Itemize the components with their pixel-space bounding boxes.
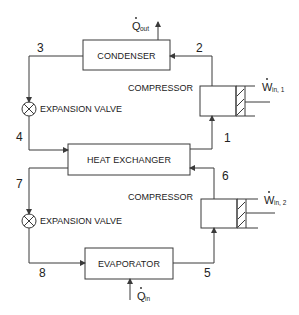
state-3-label: 3 xyxy=(37,41,44,55)
q-in-label: Q in xyxy=(137,287,150,302)
state-4-label: 4 xyxy=(16,130,23,144)
w-in-2-label: W in, 2 xyxy=(264,191,287,206)
pipe-state-7 xyxy=(29,168,68,214)
expansion-valve-top-label: EXPANSION VALVE xyxy=(40,104,122,114)
pipe-state-3 xyxy=(29,56,83,102)
svg-text:in: in xyxy=(145,295,150,302)
q-out-label: Q out xyxy=(132,17,149,32)
compressor-top xyxy=(200,86,270,116)
pipe-state-4 xyxy=(29,116,68,150)
pipe-state-8 xyxy=(29,228,85,263)
state-1-label: 1 xyxy=(224,131,231,145)
svg-text:in, 1: in, 1 xyxy=(272,86,285,93)
state-8-label: 8 xyxy=(39,266,46,280)
pipe-state-6 xyxy=(190,168,214,199)
pipe-state-5 xyxy=(173,228,214,263)
expansion-valve-top-icon xyxy=(22,102,36,116)
expansion-valve-bottom-label: EXPANSION VALVE xyxy=(40,216,122,226)
pipe-state-1 xyxy=(190,116,212,149)
svg-text:in, 2: in, 2 xyxy=(274,199,287,206)
state-2-label: 2 xyxy=(196,41,203,55)
two-stage-refrigeration-diagram: CONDENSER HEAT EXCHANGER EVAPORATOR COMP… xyxy=(0,0,299,315)
compressor-top-label: COMPRESSOR xyxy=(128,83,194,93)
expansion-valve-bottom-icon xyxy=(22,214,36,228)
w-in-1-label: W in, 1 xyxy=(262,78,285,93)
evaporator-label: EVAPORATOR xyxy=(98,259,160,269)
pipe-state-2 xyxy=(170,56,212,86)
compressor-bottom-label: COMPRESSOR xyxy=(128,192,194,202)
state-7-label: 7 xyxy=(16,177,23,191)
heat-exchanger-label: HEAT EXCHANGER xyxy=(87,155,171,165)
state-5-label: 5 xyxy=(204,266,211,280)
svg-text:out: out xyxy=(140,25,149,32)
state-6-label: 6 xyxy=(222,169,229,183)
condenser-label: CONDENSER xyxy=(97,51,156,61)
